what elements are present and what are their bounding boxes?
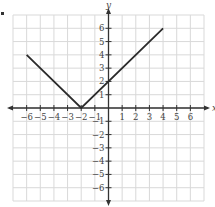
x-tick-label: −2 — [75, 112, 88, 122]
x-tick-label: 5 — [174, 112, 179, 122]
y-tick-label: −2 — [92, 130, 105, 140]
x-tick-label: 2 — [133, 112, 138, 122]
coordinate-plane: −6−5−4−3−2−1123456−6−5−4−3−2−1123456xy — [0, 0, 215, 207]
y-tick-label: −3 — [92, 143, 105, 153]
y-tick-label: 1 — [99, 90, 104, 100]
x-tick-label: 4 — [160, 112, 165, 122]
x-tick-label: 6 — [188, 112, 193, 122]
y-tick-label: 6 — [99, 23, 104, 33]
x-tick-label: −6 — [20, 112, 33, 122]
y-tick-label: −4 — [92, 156, 105, 166]
x-axis-arrow-left-icon — [7, 106, 13, 111]
x-tick-label: 1 — [119, 112, 124, 122]
y-tick-label: 4 — [99, 50, 104, 60]
y-axis-label: y — [105, 0, 112, 10]
y-tick-label: −1 — [92, 116, 105, 126]
x-axis-arrow-right-icon — [204, 106, 210, 111]
y-tick-label: −6 — [92, 183, 105, 193]
y-tick-label: −5 — [92, 169, 105, 179]
y-tick-label: 5 — [99, 37, 104, 47]
x-tick-label: −4 — [48, 112, 61, 122]
x-tick-label: −5 — [34, 112, 47, 122]
y-axis-arrow-down-icon — [106, 200, 111, 206]
x-tick-label: −3 — [61, 112, 74, 122]
y-tick-label: 3 — [99, 63, 104, 73]
x-tick-label: 3 — [147, 112, 152, 122]
x-axis-label: x — [212, 103, 215, 113]
